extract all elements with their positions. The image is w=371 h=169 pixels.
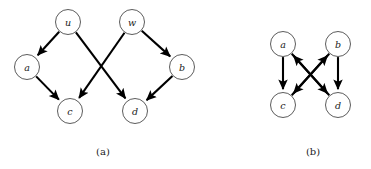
caption-panel-b: (b) [306, 146, 320, 157]
node-label-panel-b-c: c [280, 100, 286, 111]
edge-panel-b-d-to-a [294, 56, 330, 95]
node-label-panel-a-b: b [179, 62, 185, 73]
captions-layer: (a)(b) [96, 146, 320, 157]
node-label-panel-a-a: a [24, 62, 30, 73]
graph-node-panel-a-a[interactable]: a [15, 55, 40, 80]
node-label-panel-a-d: d [132, 106, 138, 117]
graph-node-panel-a-d[interactable]: d [123, 99, 148, 124]
figure-root: uwabcdabcd (a)(b) [0, 0, 371, 169]
graph-node-panel-b-b[interactable]: b [326, 32, 351, 57]
graph-node-panel-a-b[interactable]: b [170, 55, 195, 80]
edge-panel-a-w-to-b [142, 31, 170, 57]
node-label-panel-b-a: a [280, 39, 286, 50]
node-label-panel-a-w: w [128, 17, 136, 28]
graph-node-panel-a-u[interactable]: u [56, 10, 81, 35]
edge-panel-a-u-to-a [38, 32, 59, 56]
caption-panel-a: (a) [96, 146, 110, 157]
graph-node-panel-b-d[interactable]: d [326, 93, 351, 118]
node-label-panel-b-d: d [335, 100, 341, 111]
graph-node-panel-a-w[interactable]: w [120, 10, 145, 35]
node-label-panel-a-u: u [65, 17, 71, 28]
graph-figure-canvas: uwabcdabcd (a)(b) [0, 0, 371, 169]
node-label-panel-a-c: c [67, 106, 73, 117]
graph-node-panel-b-c[interactable]: c [271, 93, 296, 118]
nodes-layer: uwabcdabcd [15, 10, 351, 124]
node-label-panel-b-b: b [335, 39, 341, 50]
edge-panel-a-b-to-d [147, 76, 173, 100]
edge-panel-a-a-to-c [36, 76, 59, 99]
edge-panel-b-c-to-b [292, 56, 328, 95]
graph-node-panel-b-a[interactable]: a [271, 32, 296, 57]
graph-node-panel-a-c[interactable]: c [58, 99, 83, 124]
